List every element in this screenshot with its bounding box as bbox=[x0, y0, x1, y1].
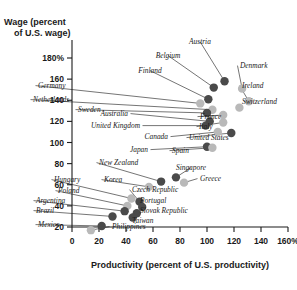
point-label: Sweden bbox=[78, 105, 101, 114]
point-label: Finland bbox=[137, 66, 162, 75]
point-label: Italy bbox=[198, 122, 213, 131]
x-tick-label: 160% bbox=[277, 236, 297, 246]
point-label: France bbox=[199, 112, 222, 121]
point-label: United Kingdom bbox=[91, 121, 141, 130]
x-tick-label: 80 bbox=[175, 236, 185, 246]
point-label: Ireland bbox=[241, 81, 264, 90]
point-label: Portugal bbox=[139, 196, 166, 205]
point-label: Philippines bbox=[111, 222, 146, 231]
x-axis-ticks: 020406080100120140160% bbox=[70, 227, 297, 246]
point-label: Australia bbox=[99, 109, 128, 118]
y-tick-label: 80 bbox=[55, 159, 65, 169]
wage-productivity-scatter-chart: 20406080100120140160180% 020406080100120… bbox=[0, 0, 297, 290]
data-point-marker bbox=[180, 178, 188, 186]
point-label: Spain bbox=[172, 146, 189, 155]
point-label: Singapore bbox=[176, 163, 207, 172]
y-axis-title-line1: Wage (percent bbox=[4, 17, 66, 27]
x-tick-label: 100 bbox=[200, 236, 214, 246]
y-tick-label: 180% bbox=[42, 53, 64, 63]
point-label: Germany bbox=[38, 81, 66, 90]
data-point-marker bbox=[127, 194, 135, 202]
data-point-marker bbox=[210, 83, 218, 91]
data-point-marker bbox=[208, 144, 216, 152]
data-point-marker bbox=[220, 77, 228, 85]
x-tick-label: 140 bbox=[254, 236, 268, 246]
point-label: Slovak Republic bbox=[140, 206, 189, 215]
y-tick-label: 120 bbox=[50, 116, 64, 126]
point-label: Brazil bbox=[36, 206, 54, 215]
data-point-marker bbox=[87, 226, 95, 234]
x-tick-label: 20 bbox=[94, 236, 104, 246]
point-label: Switzerland bbox=[242, 97, 277, 106]
point-label: Belgium bbox=[156, 51, 181, 60]
x-tick-label: 0 bbox=[70, 236, 75, 246]
point-label: Canada bbox=[145, 132, 169, 141]
data-point-marker bbox=[172, 173, 180, 181]
point-label: New Zealand bbox=[98, 158, 139, 167]
y-axis-title-line2: of U.S. wage) bbox=[14, 28, 71, 38]
data-point-marker bbox=[98, 222, 106, 230]
data-point-marker bbox=[196, 99, 204, 107]
point-label: Czech Republic bbox=[132, 185, 179, 194]
data-point-marker bbox=[120, 207, 128, 215]
point-labels-group: AustriaDenmarkBelgiumIrelandFinlandGerma… bbox=[32, 37, 277, 231]
point-label: Hungary bbox=[53, 175, 81, 184]
point-label: Poland bbox=[57, 186, 80, 195]
point-label: Austria bbox=[188, 37, 211, 46]
point-label: Denmark bbox=[239, 61, 268, 70]
point-label: Mexico bbox=[37, 220, 60, 229]
point-label: Greece bbox=[200, 174, 222, 183]
x-tick-label: 60 bbox=[148, 236, 158, 246]
y-tick-label: 100 bbox=[50, 138, 64, 148]
point-label: Argentina bbox=[35, 196, 66, 205]
x-tick-label: 40 bbox=[121, 236, 131, 246]
point-label: Korea bbox=[103, 175, 123, 184]
data-point-marker bbox=[108, 212, 116, 220]
axes-group: 20406080100120140160180% 020406080100120… bbox=[42, 40, 297, 246]
point-label: Netherlands bbox=[32, 95, 69, 104]
point-label: United States bbox=[189, 133, 229, 142]
data-point-marker bbox=[204, 95, 212, 103]
x-axis-title: Productivity (percent of U.S. productivi… bbox=[91, 260, 269, 270]
x-tick-label: 120 bbox=[227, 236, 241, 246]
point-label: Japan bbox=[130, 145, 148, 154]
